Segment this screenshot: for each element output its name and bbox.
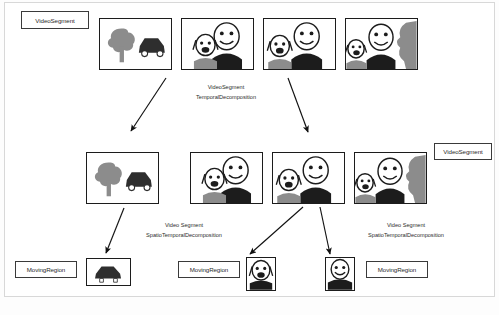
person-back-glyph	[376, 158, 405, 203]
label-moving-region-middle[interactable]: MovingRegion	[178, 261, 240, 278]
thumb-person-smile[interactable]	[325, 257, 355, 291]
person-smile-glyph	[328, 260, 352, 290]
person-front-glyph	[346, 40, 367, 69]
caption-spatio-temporal-left: Video Segment SpatioTemporalDecompositio…	[130, 221, 238, 241]
shadow-silhouette-glyph	[397, 21, 417, 69]
label-video-segment-top[interactable]: VideoSegment	[21, 11, 89, 29]
label-text: MovingRegion	[378, 266, 416, 273]
caption-line-1: Video Segment	[348, 221, 464, 231]
thumb-car[interactable]	[86, 258, 131, 286]
person-back-glyph	[291, 23, 322, 69]
label-moving-region-left[interactable]: MovingRegion	[15, 261, 77, 278]
person-back-glyph	[367, 24, 396, 69]
tree-glyph	[108, 29, 135, 63]
frame-tree-car[interactable]	[99, 18, 172, 70]
frame-tree-car-2[interactable]	[86, 152, 159, 204]
frame-two-people-shadow[interactable]	[345, 18, 418, 70]
person-front-glyph	[193, 34, 218, 69]
label-video-segment-right[interactable]: VideoSegment	[434, 143, 492, 160]
label-text: MovingRegion	[190, 266, 228, 273]
person-front-glyph	[202, 168, 227, 203]
frame-two-people-d[interactable]	[272, 152, 345, 204]
frame-two-people-b[interactable]	[263, 18, 336, 70]
frame-two-people-c[interactable]	[190, 152, 263, 204]
label-text: MovingRegion	[27, 266, 65, 273]
label-text: VideoSegment	[35, 17, 74, 24]
shadow-silhouette-glyph	[406, 155, 426, 203]
frame-two-people-shadow-2[interactable]	[354, 152, 427, 204]
car-glyph	[126, 172, 152, 190]
diagram-canvas: VideoSegment	[0, 0, 499, 315]
car-glyph	[139, 38, 165, 56]
caption-line-2: SpatioTemporalDecomposition	[130, 231, 238, 241]
frame-two-people-a[interactable]	[181, 18, 254, 70]
person-front-glyph	[267, 35, 292, 69]
caption-line-1: Video Segment	[130, 221, 238, 231]
caption-spatio-temporal-right: Video Segment SpatioTemporalDecompositio…	[348, 221, 464, 241]
label-moving-region-right[interactable]: MovingRegion	[366, 261, 428, 278]
caption-line-2: TemporalDecomposition	[172, 93, 280, 103]
label-text: VideoSegment	[443, 148, 482, 155]
person-back-glyph	[300, 157, 331, 203]
thumb-person-open-mouth[interactable]	[246, 257, 276, 291]
caption-line-2: SpatioTemporalDecomposition	[348, 231, 464, 241]
car-glyph	[95, 266, 121, 282]
person-front-glyph	[355, 174, 376, 203]
person-open-mouth-glyph	[249, 260, 272, 289]
tree-glyph	[95, 163, 122, 197]
caption-temporal-decomposition: VideoSegment TemporalDecomposition	[172, 83, 280, 103]
caption-line-1: VideoSegment	[172, 83, 280, 93]
person-front-glyph	[276, 169, 301, 203]
